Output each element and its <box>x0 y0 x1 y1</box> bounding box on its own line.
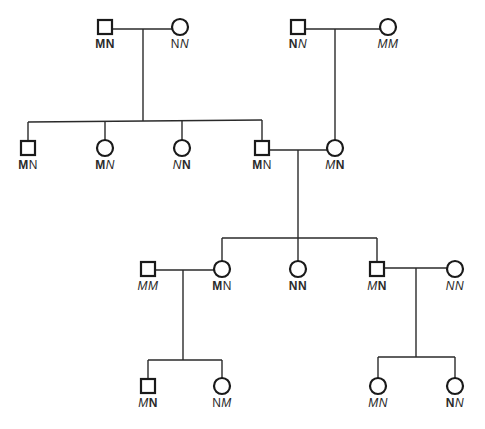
male-square-icon <box>255 141 269 155</box>
female-circle-icon <box>447 378 463 394</box>
genotype-label-iii4: MN <box>352 279 402 293</box>
allele: N <box>171 37 180 51</box>
allele: M <box>388 37 399 51</box>
female-circle-icon <box>290 261 306 277</box>
male-square-icon <box>21 141 35 155</box>
male-square-icon <box>141 379 155 393</box>
allele: N <box>182 158 191 172</box>
allele: N <box>263 158 272 172</box>
genotype-label-iii2: MN <box>197 279 247 293</box>
allele: M <box>325 158 336 172</box>
female-circle-icon <box>380 19 396 35</box>
male-square-icon <box>98 20 112 34</box>
allele: M <box>95 37 106 51</box>
pedigree-diagram: MNNNNNMMMNMNNNMNMNMMMNNNMNNNMNNMMNNN <box>0 0 485 429</box>
genotype-label-i1: MN <box>80 37 130 51</box>
male-square-icon <box>291 20 305 34</box>
genotype-label-ii5: MN <box>310 158 360 172</box>
allele: N <box>29 158 38 172</box>
female-circle-icon <box>327 140 343 156</box>
allele: N <box>106 37 115 51</box>
allele: N <box>336 158 345 172</box>
genotype-label-iii5: NN <box>430 279 480 293</box>
allele: N <box>223 279 232 293</box>
genotype-label-iii3: NN <box>273 279 323 293</box>
allele: M <box>148 279 159 293</box>
allele: N <box>446 279 455 293</box>
female-circle-icon <box>214 261 230 277</box>
allele: M <box>252 158 263 172</box>
allele: M <box>367 279 378 293</box>
allele: M <box>138 279 149 293</box>
genotype-label-i4: MM <box>363 37 413 51</box>
genotype-label-ii1: MN <box>3 158 53 172</box>
allele: M <box>95 158 106 172</box>
female-circle-icon <box>174 140 190 156</box>
allele: N <box>289 279 298 293</box>
allele: N <box>173 158 182 172</box>
allele: N <box>149 396 158 410</box>
genotype-label-iii1: MM <box>123 279 173 293</box>
allele: N <box>379 396 388 410</box>
male-square-icon <box>141 262 155 276</box>
allele: N <box>455 279 464 293</box>
allele: N <box>378 279 387 293</box>
genotype-label-iv3: MN <box>353 396 403 410</box>
allele: N <box>455 396 464 410</box>
genotype-label-i2: NN <box>155 37 205 51</box>
allele: M <box>368 396 379 410</box>
allele: N <box>180 37 189 51</box>
genotype-label-iv2: NM <box>197 396 247 410</box>
allele: N <box>289 37 298 51</box>
genotype-label-iv4: NN <box>430 396 480 410</box>
allele: M <box>138 396 149 410</box>
allele: M <box>212 279 223 293</box>
female-circle-icon <box>97 140 113 156</box>
allele: N <box>298 279 307 293</box>
genotype-label-ii4: MN <box>237 158 287 172</box>
female-circle-icon <box>214 378 230 394</box>
female-circle-icon <box>447 261 463 277</box>
genotype-label-ii3: NN <box>157 158 207 172</box>
pedigree-connector-line <box>28 120 262 122</box>
male-square-icon <box>370 262 384 276</box>
genotype-label-iv1: MN <box>123 396 173 410</box>
allele: M <box>378 37 389 51</box>
female-circle-icon <box>370 378 386 394</box>
allele: N <box>106 158 115 172</box>
allele: M <box>18 158 29 172</box>
genotype-label-i3: NN <box>273 37 323 51</box>
genotype-label-ii2: MN <box>80 158 130 172</box>
female-circle-icon <box>172 19 188 35</box>
allele: M <box>221 396 232 410</box>
allele: N <box>212 396 221 410</box>
pedigree-lines <box>0 0 485 429</box>
allele: N <box>298 37 307 51</box>
allele: N <box>446 396 455 410</box>
